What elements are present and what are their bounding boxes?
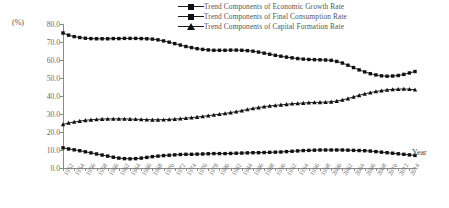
data-point (123, 157, 126, 160)
data-point (246, 49, 249, 52)
data-point (318, 58, 321, 61)
series-1 (61, 146, 416, 160)
plot-area: 0.010.020.030.040.050.060.070.080.019521… (63, 24, 415, 168)
data-point (173, 153, 176, 156)
data-point (285, 55, 288, 58)
data-point (151, 155, 154, 158)
data-point (179, 43, 182, 46)
data-point (385, 75, 388, 78)
series-2 (61, 31, 416, 78)
data-point (134, 157, 137, 160)
data-point (374, 73, 377, 76)
data-point (140, 156, 143, 159)
y-axis-tick-label: 20.0 (47, 128, 60, 137)
data-point (290, 56, 293, 59)
data-point (268, 151, 271, 154)
data-point (162, 39, 165, 42)
data-point (229, 152, 232, 155)
data-point (302, 149, 305, 152)
data-point (313, 148, 316, 151)
data-point (274, 150, 277, 153)
legend-label: Trend Components of Economic Growth Rate (204, 2, 344, 11)
data-point (212, 49, 215, 52)
data-point (195, 47, 198, 50)
data-point (229, 48, 232, 51)
data-point (190, 46, 193, 49)
data-point (84, 150, 87, 153)
data-point (402, 73, 405, 76)
y-axis-unit-label: (%) (12, 18, 24, 27)
data-point (240, 49, 243, 52)
data-point (167, 154, 170, 157)
data-point (67, 147, 70, 150)
legend-marker-square-icon (178, 12, 204, 21)
data-point (246, 151, 249, 154)
data-point (408, 153, 411, 156)
data-point (279, 55, 282, 58)
data-point (262, 51, 265, 54)
data-point (89, 37, 92, 40)
data-point (274, 54, 277, 57)
data-point (413, 70, 416, 73)
y-axis-tick-label: 10.0 (47, 146, 60, 155)
data-point (357, 149, 360, 152)
data-point (112, 37, 115, 40)
data-point (184, 153, 187, 156)
y-axis-tick-label: 70.0 (47, 38, 60, 47)
series-line (63, 33, 415, 76)
data-point (156, 154, 159, 157)
data-point (391, 74, 394, 77)
data-point (72, 148, 75, 151)
data-point (341, 61, 344, 64)
data-point (123, 37, 126, 40)
data-point (385, 151, 388, 154)
data-point (251, 49, 254, 52)
data-point (151, 37, 154, 40)
data-point (84, 37, 87, 40)
data-point (100, 37, 103, 40)
legend-marker-square-icon (178, 2, 204, 11)
data-point (346, 148, 349, 151)
data-point (380, 150, 383, 153)
data-point (397, 152, 400, 155)
chart-container: (%) Trend Components of Economic Growth … (0, 0, 449, 208)
y-axis-tick-mark (60, 42, 63, 43)
data-point (195, 152, 198, 155)
data-point (318, 148, 321, 151)
data-point (324, 58, 327, 61)
data-point (106, 37, 109, 40)
data-point (307, 149, 310, 152)
data-point (369, 149, 372, 152)
data-point (262, 151, 265, 154)
series-layer (63, 24, 415, 168)
data-point (128, 157, 131, 160)
data-point (313, 58, 316, 61)
data-point (363, 149, 366, 152)
y-axis-tick-mark (60, 150, 63, 151)
y-axis-tick-label: 80.0 (47, 20, 60, 29)
data-point (95, 152, 98, 155)
data-point (391, 152, 394, 155)
data-point (212, 152, 215, 155)
data-point (117, 37, 120, 40)
data-point (156, 38, 159, 41)
data-point (78, 149, 81, 152)
data-point (408, 71, 411, 74)
data-point (67, 33, 70, 36)
data-point (218, 152, 221, 155)
series-3 (61, 87, 417, 127)
data-point (207, 48, 210, 51)
data-point (329, 59, 332, 62)
data-point (257, 50, 260, 53)
data-point (235, 48, 238, 51)
legend-label: Trend Components of Final Consumption Ra… (204, 12, 347, 21)
data-point (179, 153, 182, 156)
data-point (251, 151, 254, 154)
legend-item-1: Trend Components of Economic Growth Rate (178, 2, 446, 11)
data-point (106, 154, 109, 157)
data-point (402, 153, 405, 156)
data-point (296, 57, 299, 60)
data-point (240, 151, 243, 154)
data-point (235, 152, 238, 155)
y-axis-tick-label: 40.0 (47, 92, 60, 101)
